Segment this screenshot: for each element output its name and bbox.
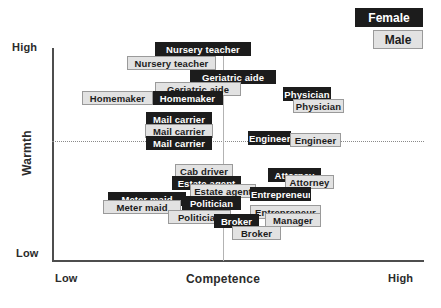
y-axis-line: [52, 48, 54, 261]
x-axis-title: Competence: [186, 272, 260, 286]
legend: Female Male: [355, 8, 423, 49]
data-point-label: Mail carrier: [146, 136, 212, 150]
y-axis-tick-low: Low: [16, 247, 39, 259]
data-point-label: Politician: [182, 196, 241, 210]
chart-canvas: High Low Low High Competence Warmth Nurs…: [0, 0, 441, 308]
legend-item-female[interactable]: Female: [355, 8, 423, 27]
data-point-label: Manager: [265, 213, 321, 227]
data-point-label: Engineer: [290, 133, 341, 147]
legend-item-male[interactable]: Male: [373, 30, 423, 49]
y-axis-title: Warmth: [20, 113, 34, 193]
x-axis-tick-high: High: [388, 272, 413, 284]
data-point-label: Homemaker: [82, 91, 153, 105]
data-point-label: Homemaker: [152, 91, 223, 105]
x-axis-tick-low: Low: [55, 272, 78, 284]
y-axis-tick-high: High: [12, 41, 37, 53]
data-point-label: Nursery teacher: [155, 42, 251, 56]
data-point-label: Nursery teacher: [127, 56, 216, 70]
x-axis-line: [52, 260, 424, 262]
warmth-midline: [52, 141, 424, 142]
data-point-label: Entrepreneur: [250, 187, 311, 201]
data-point-label: Broker: [232, 226, 281, 240]
data-point-label: Engineer: [248, 131, 291, 145]
data-point-label: Physician: [293, 99, 344, 113]
